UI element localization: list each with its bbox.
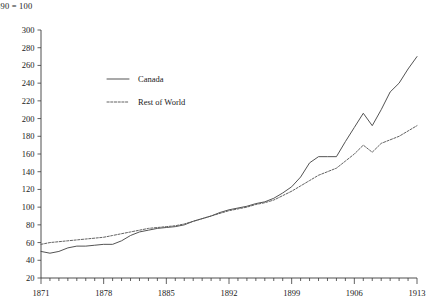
x-axis-tick-label: 1878 bbox=[95, 288, 112, 298]
line-chart-plot: 2040608010012014016018020022024026028030… bbox=[0, 0, 432, 305]
x-axis-tick-label: 1885 bbox=[158, 288, 175, 298]
y-axis-tick-label: 200 bbox=[22, 114, 35, 124]
series-line-canada bbox=[41, 57, 417, 254]
data-series-group bbox=[41, 57, 417, 254]
x-axis-tick-label: 1899 bbox=[283, 288, 300, 298]
x-axis-tick-label: 1892 bbox=[221, 288, 238, 298]
y-axis-tick-label: 80 bbox=[26, 220, 35, 230]
y-axis-tick-label: 20 bbox=[26, 273, 35, 283]
legend-label-rest-of-world: Rest of World bbox=[138, 97, 186, 107]
y-axis-tick-label: 180 bbox=[22, 131, 35, 141]
x-axis-tick-label: 1871 bbox=[33, 288, 50, 298]
y-axis-tick-label: 140 bbox=[22, 167, 35, 177]
series-line-rest-of-world bbox=[41, 126, 417, 245]
y-axis-tick-label: 260 bbox=[22, 60, 35, 70]
legend-label-canada: Canada bbox=[138, 74, 164, 84]
chart-container: 890 = 100 204060801001201401601802002202… bbox=[0, 0, 432, 305]
y-axis-tick-label: 160 bbox=[22, 149, 35, 159]
y-axis-tick-label: 40 bbox=[26, 255, 35, 265]
y-axis-tick-label: 60 bbox=[26, 238, 35, 248]
y-axis-tick-label: 300 bbox=[22, 25, 35, 35]
y-axis-tick-label: 120 bbox=[22, 184, 35, 194]
y-axis-tick-label: 220 bbox=[22, 96, 35, 106]
y-axis-tick-label: 240 bbox=[22, 78, 35, 88]
x-axis: 1871187818851892189919061913 bbox=[33, 278, 426, 298]
x-axis-tick-label: 1906 bbox=[346, 288, 363, 298]
x-axis-tick-label: 1913 bbox=[409, 288, 426, 298]
chart-legend: CanadaRest of World bbox=[107, 74, 186, 107]
y-axis: 2040608010012014016018020022024026028030… bbox=[22, 25, 41, 283]
y-axis-tick-label: 100 bbox=[22, 202, 35, 212]
y-axis-tick-label: 280 bbox=[22, 43, 35, 53]
